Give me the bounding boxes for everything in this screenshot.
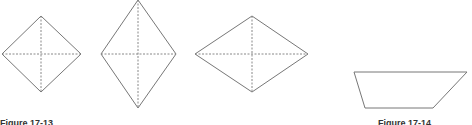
figure-17-14-shapes [354,72,467,108]
caption-figure-17-14: Figure 17-14 [378,118,431,125]
square-diamond [2,16,81,92]
figure-canvas [0,0,472,125]
wide-diamond [195,16,308,92]
figure-17-13-shapes [2,0,308,108]
trapezoid [354,72,467,108]
caption-figure-17-13: Figure 17-13 [0,118,53,125]
tall-diamond [101,0,176,108]
